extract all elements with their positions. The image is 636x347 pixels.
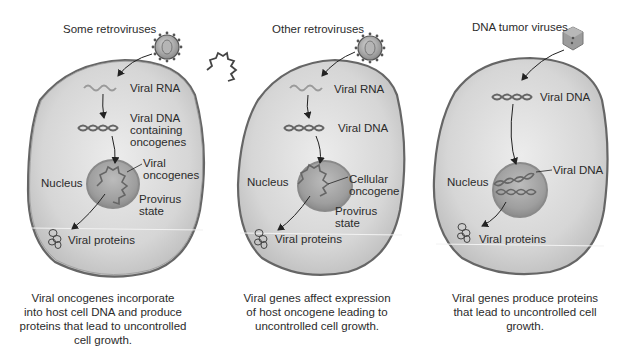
free-oncogene-squiggle-icon — [207, 53, 236, 81]
panel-2-caption-line-1: Viral genes affect expression — [217, 291, 417, 305]
panel-1-label-viral-rna: Viral RNA — [130, 82, 180, 95]
panel-2-label-nucleus: Nucleus — [247, 176, 289, 189]
panel-2-virus-icon — [355, 33, 386, 64]
panel-2-caption-line-2: of host oncogene leading to — [217, 305, 417, 319]
panel-1-caption-line-3: proteins that lead to uncontrolled — [3, 319, 203, 333]
panel-2-label-viral-rna: Viral RNA — [334, 83, 384, 96]
panel-1-caption: Viral oncogenes incorporate into host ce… — [3, 291, 203, 347]
panel-3-label-proteins: Viral proteins — [479, 233, 546, 246]
panel-2-caption: Viral genes affect expression of host on… — [217, 291, 417, 333]
panel-1-label-nucleus: Nucleus — [41, 177, 83, 190]
panel-3-label-viral-dna: Viral DNA — [540, 91, 590, 104]
panel-1-caption-line-4: cell growth. — [3, 333, 203, 347]
panel-1-label-gene-b: oncogenes — [143, 169, 199, 182]
panel-2-label-proteins: Viral proteins — [275, 233, 342, 246]
panel-1-label-proteins: Viral proteins — [68, 234, 135, 247]
panel-1-virus-icon — [152, 32, 183, 63]
panel-1-caption-line-1: Viral oncogenes incorporate — [3, 291, 203, 305]
panel-3-caption-line-1: Viral genes produce proteins — [425, 291, 625, 305]
panel-1-caption-line-2: into host cell DNA and produce — [3, 305, 203, 319]
panel-3-label-viral-dna-nucleus: Viral DNA — [553, 164, 603, 177]
panel-1-nucleus — [87, 160, 139, 208]
panel-2-label-viral-dna: Viral DNA — [338, 122, 388, 135]
panel-1-label-provirus-b: state — [139, 205, 164, 218]
panel-3-title: DNA tumor viruses — [472, 21, 568, 34]
panel-2-title: Other retroviruses — [272, 23, 364, 36]
panel-1-title: Some retroviruses — [63, 23, 156, 36]
panel-3-caption-line-3: growth. — [425, 319, 625, 333]
panel-2-label-provirus-b: state — [335, 217, 360, 230]
panel-1-label-viral-dna-sub2: oncogenes — [130, 136, 186, 149]
panel-3-caption-line-2: that lead to uncontrolled cell — [425, 305, 625, 319]
panel-2-caption-line-3: uncontrolled cell growth. — [217, 319, 417, 333]
panel-3-caption: Viral genes produce proteins that lead t… — [425, 291, 625, 333]
panel-2-label-gene-b: oncogene — [349, 185, 400, 198]
panel-3-label-nucleus: Nucleus — [447, 176, 489, 189]
